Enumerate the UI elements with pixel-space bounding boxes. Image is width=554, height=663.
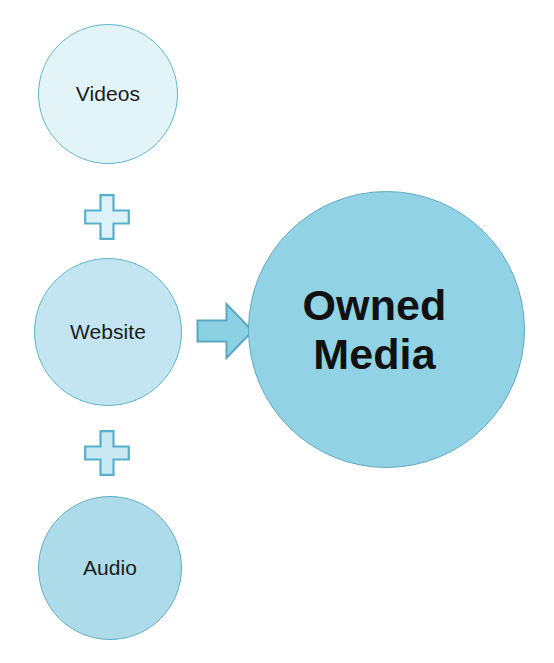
diagram-canvas: Videos Website Audio Owned Media [0, 0, 554, 663]
node-audio-label: Audio [83, 557, 137, 579]
node-videos[interactable]: Videos [38, 24, 178, 164]
node-website[interactable]: Website [34, 258, 182, 406]
node-website-label: Website [70, 321, 146, 343]
node-owned-media-label-line1: Owned [303, 281, 447, 329]
arrow-right-icon [196, 301, 254, 361]
node-videos-label: Videos [76, 83, 140, 105]
node-owned-media-label-line2: Media [313, 330, 435, 378]
plus-icon-1-glyph [84, 194, 130, 240]
node-owned-media-label: Owned Media [303, 281, 447, 377]
plus-icon-2 [84, 430, 130, 476]
plus-icon-2-glyph [84, 430, 130, 476]
node-audio[interactable]: Audio [38, 496, 182, 640]
node-owned-media[interactable]: Owned Media [248, 191, 525, 468]
plus-icon-1 [84, 194, 130, 240]
arrow-right-icon-glyph [196, 301, 254, 361]
